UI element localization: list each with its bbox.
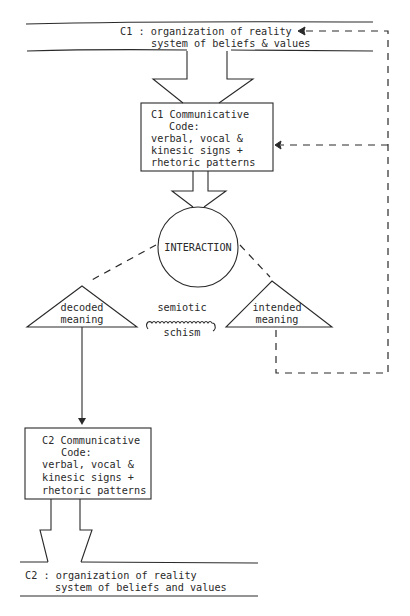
c1-culture-band: C1 : organization of reality system of b… bbox=[26, 22, 373, 51]
c1-band-top-line bbox=[26, 22, 373, 24]
intended-line2: meaning bbox=[256, 314, 299, 325]
c2-culture-band: C2 : organization of reality system of b… bbox=[20, 562, 258, 596]
c1-code-line4: kinesic signs + bbox=[151, 145, 243, 156]
c1-code-line2: Code: bbox=[169, 121, 200, 132]
arrowhead-down-icon bbox=[78, 418, 86, 425]
c2-code-box: C2 Communicative Code: verbal, vocal & k… bbox=[25, 428, 151, 499]
decoded-line1: decoded bbox=[61, 302, 104, 313]
c1-code-line1: C1 Communicative bbox=[151, 109, 249, 120]
c2-code-line5: rhetoric patterns bbox=[42, 485, 146, 496]
c2-culture-line1: C2 : organization of reality bbox=[25, 570, 197, 581]
c1-band-bottom-line-left bbox=[27, 50, 187, 51]
c1-code-line3: verbal, vocal & bbox=[151, 133, 244, 144]
c1-code-line5: rhetoric patterns bbox=[151, 157, 255, 168]
decoded-meaning-node: decoded meaning bbox=[27, 286, 137, 327]
c1-culture-line1: C1 : organization of reality bbox=[120, 26, 292, 37]
schism-line2: schism bbox=[164, 327, 201, 338]
decoded-line2: meaning bbox=[61, 314, 104, 325]
block-arrow-c2-code-to-band bbox=[40, 499, 92, 562]
arrowhead-left-icon-2 bbox=[275, 141, 281, 149]
arrow-decoded-to-c2 bbox=[78, 327, 86, 425]
arrowhead-left-icon bbox=[298, 27, 305, 35]
interaction-label: INTERACTION bbox=[164, 242, 231, 253]
c2-code-line1: C2 Communicative bbox=[42, 435, 140, 446]
c1-code-box: C1 Communicative Code: verbal, vocal & k… bbox=[141, 103, 273, 171]
dashed-link-interaction-intended bbox=[240, 245, 270, 277]
block-arrow-c1-to-code bbox=[153, 51, 253, 103]
intended-line1: intended bbox=[252, 302, 301, 313]
c2-code-line2: Code: bbox=[61, 447, 92, 458]
diagram-canvas: C1 : organization of reality system of b… bbox=[0, 0, 410, 616]
c1-culture-line2: system of beliefs & values bbox=[151, 38, 310, 49]
c1-band-bottom-line-right bbox=[231, 50, 373, 51]
block-arrow-code-to-interaction bbox=[172, 171, 226, 207]
c2-code-line4: kinesic signs + bbox=[42, 472, 134, 483]
c2-band-top-line bbox=[20, 562, 258, 563]
intended-meaning-node: intended meaning bbox=[226, 281, 332, 327]
interaction-node: INTERACTION bbox=[158, 207, 238, 287]
dashed-link-interaction-decoded bbox=[88, 245, 156, 282]
semiotic-schism: semiotic schism bbox=[147, 302, 216, 338]
c2-code-line3: verbal, vocal & bbox=[42, 459, 135, 470]
c2-culture-line2: system of beliefs and values bbox=[55, 582, 227, 593]
schism-line1: semiotic bbox=[157, 302, 206, 313]
